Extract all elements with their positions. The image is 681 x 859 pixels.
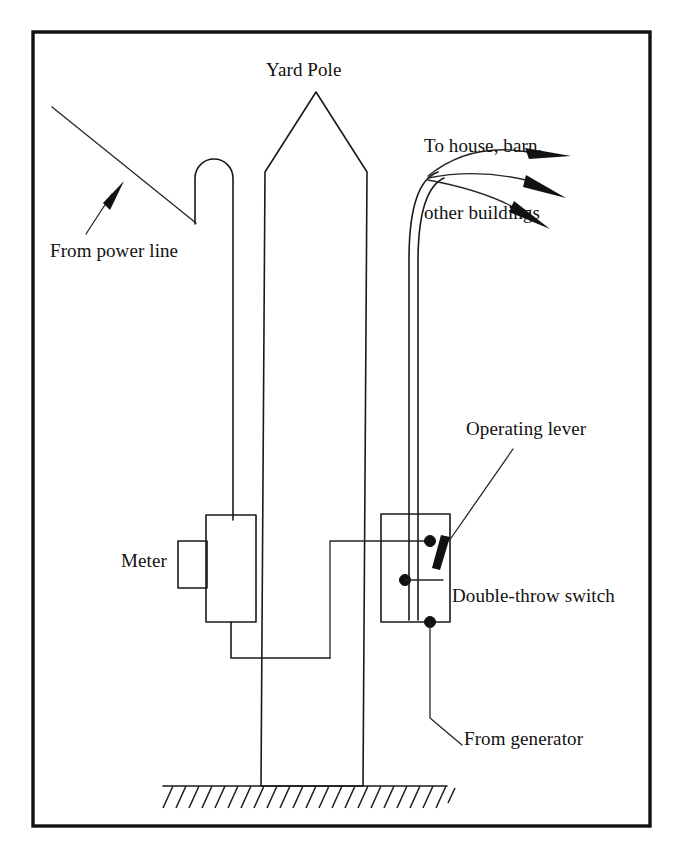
label-double-throw-switch: Double-throw switch <box>452 585 615 607</box>
label-meter: Meter <box>121 550 167 572</box>
yard-pole-outline <box>261 92 367 786</box>
meter-side-nipple <box>178 541 207 588</box>
from-power-line-arrow-icon <box>103 181 124 210</box>
service-weatherhead <box>195 159 233 520</box>
meter-box <box>206 515 256 622</box>
label-operating-lever: Operating lever <box>466 418 586 440</box>
generator-conductor <box>430 623 462 745</box>
label-from-power-line: From power line <box>50 240 178 262</box>
power-line-conductor <box>52 107 196 223</box>
meter-to-switch-conductor <box>330 541 430 658</box>
label-to-buildings-line2: other buildings <box>424 202 542 224</box>
label-to-buildings: To house, barn, other buildings <box>424 90 542 269</box>
label-to-buildings-line1: To house, barn, <box>424 135 542 157</box>
diagram-page: Yard Pole To house, barn, other building… <box>0 0 681 859</box>
switch-contact-upper <box>425 536 436 547</box>
label-from-generator: From generator <box>464 728 583 750</box>
label-yard-pole: Yard Pole <box>266 59 342 81</box>
meter-lower-conduit <box>231 622 330 658</box>
operating-lever-leader <box>449 449 513 541</box>
ground-hatching <box>163 786 455 808</box>
